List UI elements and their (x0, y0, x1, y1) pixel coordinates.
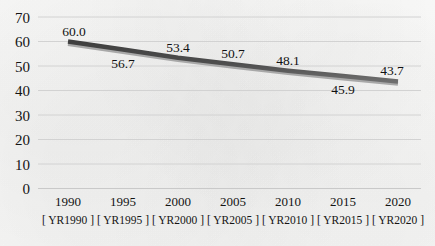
y-axis-tick-label: 50 (15, 59, 30, 75)
x-axis-tick-label: 2015 (330, 194, 356, 209)
x-axis-code-label: [ YR2010 ] (262, 214, 314, 226)
data-label: 48.1 (276, 53, 300, 68)
x-axis-code-labels: [ YR1990 ][ YR1995 ][ YR2000 ][ YR2005 ]… (42, 214, 424, 226)
data-labels-group: 60.056.753.450.748.145.943.7 (62, 24, 404, 98)
y-axis-tick-label: 30 (15, 108, 30, 124)
x-axis-code-label: [ YR2005 ] (207, 214, 259, 226)
y-axis-tick-label: 40 (15, 83, 30, 99)
x-axis-tick-label: 1990 (55, 194, 81, 209)
y-axis-tick-label: 70 (15, 10, 30, 26)
gridlines-group (38, 17, 421, 189)
y-axis-tick-label: 60 (15, 34, 30, 50)
x-axis-code-label: [ YR1990 ] (42, 214, 94, 226)
data-label: 53.4 (166, 40, 190, 55)
x-axis-code-label: [ YR2020 ] (372, 214, 424, 226)
y-axis-tick-labels: 706050403020100 (15, 10, 30, 198)
data-label: 50.7 (221, 46, 245, 61)
x-axis-code-label: [ YR2015 ] (317, 214, 369, 226)
y-axis-tick-label: 0 (23, 181, 31, 197)
x-axis-tick-label: 2005 (220, 194, 246, 209)
data-label: 56.7 (111, 56, 135, 71)
x-axis-tick-label: 1995 (110, 194, 136, 209)
y-axis-tick-label: 10 (15, 157, 30, 173)
x-axis-code-label: [ YR1995 ] (97, 214, 149, 226)
data-label: 43.7 (380, 63, 404, 78)
x-axis-tick-label: 2020 (385, 194, 411, 209)
y-axis-tick-label: 20 (15, 132, 30, 148)
line-chart: 706050403020100 199019952000200520102015… (0, 0, 435, 246)
x-axis-tick-label: 2010 (275, 194, 301, 209)
data-label: 60.0 (62, 24, 86, 39)
x-axis-code-label: [ YR2000 ] (152, 214, 204, 226)
data-label: 45.9 (331, 82, 355, 97)
x-axis-tick-labels: 1990199520002005201020152020 (55, 194, 411, 209)
x-axis-tick-label: 2000 (165, 194, 191, 209)
